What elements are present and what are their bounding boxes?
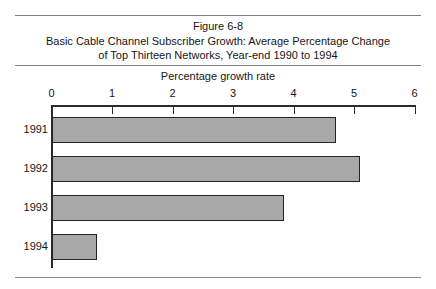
x-axis-tick-label-4: 4 bbox=[284, 87, 304, 99]
category-label-1992: 1992 bbox=[12, 162, 48, 174]
x-axis-tick-label-2: 2 bbox=[163, 87, 183, 99]
bar-1994 bbox=[52, 234, 97, 260]
x-axis-tick-label-3: 3 bbox=[223, 87, 243, 99]
category-label-1994: 1994 bbox=[12, 240, 48, 252]
x-axis-tick-5 bbox=[354, 107, 355, 114]
x-axis-tick-1 bbox=[112, 107, 113, 114]
x-axis-tick-label-1: 1 bbox=[102, 87, 122, 99]
x-axis-tick-label-6: 6 bbox=[405, 87, 425, 99]
x-axis-tick-2 bbox=[173, 107, 174, 114]
bar-1992 bbox=[52, 156, 360, 182]
divider-bottom bbox=[15, 277, 421, 278]
category-label-1993: 1993 bbox=[12, 201, 48, 213]
category-label-1991: 1991 bbox=[12, 123, 48, 135]
x-axis-tick-6 bbox=[415, 107, 416, 114]
x-axis-tick-3 bbox=[233, 107, 234, 114]
plot-area: 0123456 1991199219931994 bbox=[0, 0, 436, 289]
x-axis-tick-0 bbox=[52, 107, 53, 114]
x-axis-tick-label-0: 0 bbox=[42, 87, 62, 99]
x-axis-tick-label-5: 5 bbox=[344, 87, 364, 99]
bar-1993 bbox=[52, 195, 284, 221]
bar-1991 bbox=[52, 117, 336, 143]
figure-container: Figure 6-8 Basic Cable Channel Subscribe… bbox=[0, 0, 436, 289]
x-axis-tick-4 bbox=[294, 107, 295, 114]
